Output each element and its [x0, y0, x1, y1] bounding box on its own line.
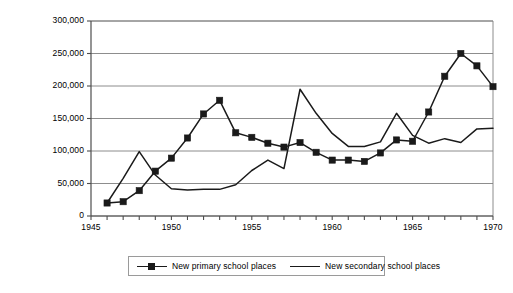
data-point-marker [426, 109, 432, 115]
data-point-marker [120, 199, 126, 205]
data-point-marker [233, 130, 239, 136]
data-point-marker [168, 155, 174, 161]
data-point-marker [136, 188, 142, 194]
x-axis-tick-label: 1955 [232, 222, 272, 232]
data-point-marker [104, 200, 110, 206]
y-axis-tick-label: 100,000 [38, 145, 84, 155]
data-point-marker [377, 150, 383, 156]
data-point-marker [297, 139, 303, 145]
series-line-1 [107, 54, 493, 204]
legend-key-square-line-icon [137, 261, 167, 271]
legend-entry-2: New secondary school places [290, 261, 440, 271]
data-point-marker [217, 97, 223, 103]
data-point-marker [361, 158, 367, 164]
legend-entry-1: New primary school places [137, 261, 276, 271]
y-axis-tick-label: 50,000 [38, 178, 84, 188]
x-axis-tick-label: 1945 [71, 222, 111, 232]
data-point-marker [458, 50, 464, 56]
x-axis-tick-label: 1970 [473, 222, 513, 232]
data-point-marker [410, 138, 416, 144]
data-point-marker [442, 73, 448, 79]
y-axis-tick-label: 200,000 [38, 80, 84, 90]
legend-label: New primary school places [172, 261, 276, 271]
data-point-marker [345, 157, 351, 163]
data-point-marker [152, 168, 158, 174]
data-point-marker [265, 140, 271, 146]
series-line-2 [107, 89, 493, 203]
data-point-marker [313, 149, 319, 155]
data-point-marker [281, 144, 287, 150]
y-axis-tick-label: 0 [38, 210, 84, 220]
data-point-marker [490, 84, 496, 90]
data-point-marker [200, 111, 206, 117]
data-point-marker [249, 134, 255, 140]
y-axis-tick-label: 150,000 [38, 113, 84, 123]
legend-key-line-icon [290, 261, 320, 271]
chart-legend: New primary school placesNew secondary s… [128, 256, 385, 276]
x-axis-tick-label: 1960 [312, 222, 352, 232]
x-axis-tick-label: 1950 [151, 222, 191, 232]
data-point-marker [474, 63, 480, 69]
data-point-marker [184, 135, 190, 141]
data-point-marker [329, 157, 335, 163]
y-axis-tick-label: 250,000 [38, 48, 84, 58]
legend-label: New secondary school places [325, 261, 440, 271]
data-point-marker [393, 137, 399, 143]
chart-container: Number of new primary and secondary scho… [0, 0, 513, 293]
x-axis-tick-label: 1965 [393, 222, 433, 232]
y-axis-tick-label: 300,000 [38, 15, 84, 25]
